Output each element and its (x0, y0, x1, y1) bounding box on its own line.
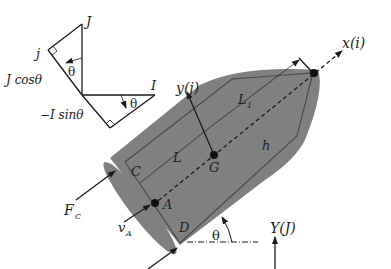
label-velocity: v (118, 220, 126, 235)
point-G (210, 151, 218, 159)
point-A (151, 199, 159, 207)
label-theta-lower: θ (130, 97, 137, 111)
label-L1-sub: 1 (247, 101, 252, 110)
label-theta-body: θ (212, 228, 220, 243)
label-force-sub: C (75, 212, 81, 221)
label-j: j (33, 46, 40, 61)
force-FC-arrow (76, 171, 115, 200)
theta-arc (222, 217, 232, 242)
boat-diagram: J j I θ θ J cosθ −I sinθ x(i) y(j) L 1 L… (0, 0, 391, 269)
label-L1: L (237, 92, 247, 107)
label-G: G (209, 160, 219, 175)
label-C: C (131, 164, 141, 179)
point-bow (310, 69, 318, 77)
label-h: h (262, 138, 270, 153)
label-x-axis: x(i) (342, 35, 365, 51)
label-L: L (172, 150, 182, 165)
label-velocity-sub: A (125, 229, 132, 238)
label-theta-upper: θ (68, 65, 75, 79)
label-y-axis: y(j) (175, 80, 199, 96)
label-A: A (162, 197, 172, 212)
label-j-component: J cosθ (3, 73, 43, 87)
label-I: I (150, 78, 157, 93)
label-D: D (178, 220, 190, 235)
bottom-force-arrow (148, 248, 177, 269)
label-force: F (63, 202, 75, 218)
label-J: J (83, 14, 92, 29)
label-Y-axis: Y(J) (270, 220, 296, 236)
label-i-component: −I sinθ (40, 108, 84, 122)
